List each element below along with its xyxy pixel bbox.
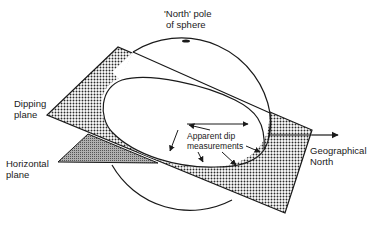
north-pole-label-line1: 'North' pole [164, 8, 211, 19]
dipping-plane-label: Dipping plane [14, 98, 46, 120]
geographical-north-label-line1: Geographical [310, 145, 367, 156]
geographical-north-label: Geographical North [310, 145, 367, 167]
apparent-dip-diagram [0, 0, 380, 226]
dipping-plane-label-line1: Dipping [14, 98, 46, 109]
geographical-north-label-line2: North [310, 156, 367, 167]
horizontal-plane-label-line2: plane [6, 169, 49, 180]
north-pole-label-line2: of sphere [164, 19, 211, 30]
apparent-dip-label-line2: measurements [187, 141, 243, 151]
horizontal-plane-label: Horizontal plane [6, 158, 49, 180]
north-pole-marker [182, 39, 190, 42]
horizontal-plane-label-line1: Horizontal [6, 158, 49, 169]
dipping-plane-label-line2: plane [14, 109, 46, 120]
north-pole-label: 'North' pole of sphere [164, 8, 211, 30]
apparent-dip-label-line1: Apparent dip [187, 131, 243, 141]
apparent-dip-label: Apparent dip measurements [187, 131, 243, 151]
